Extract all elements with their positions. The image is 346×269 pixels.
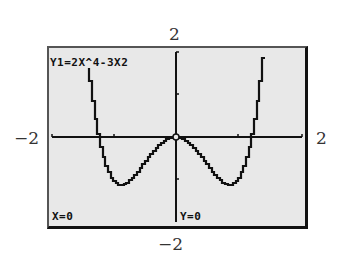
equation-label: Y1=2X^4-3X2 bbox=[50, 57, 128, 68]
x-coordinate-readout: X=0 bbox=[52, 211, 73, 222]
graph-plot bbox=[0, 0, 346, 269]
trace-cursor bbox=[173, 134, 179, 140]
y-coordinate-readout: Y=0 bbox=[180, 211, 201, 222]
